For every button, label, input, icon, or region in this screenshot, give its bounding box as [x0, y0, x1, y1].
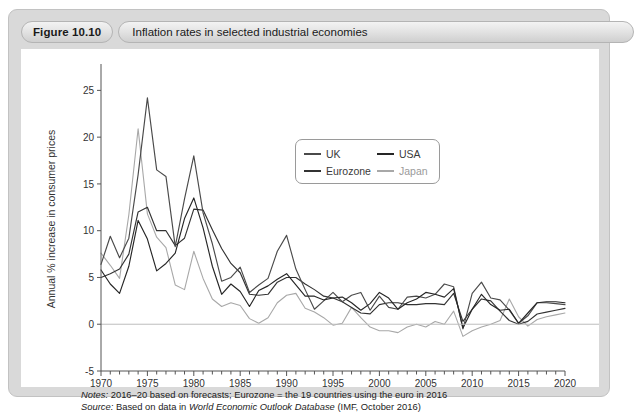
x-tick-label: 1970	[90, 378, 113, 387]
x-tick-label: 2020	[554, 378, 577, 387]
legend-swatch-usa	[377, 153, 394, 155]
legend-swatch-eurozone	[304, 170, 321, 172]
y-tick-label: 15	[83, 179, 95, 190]
figure-title-label: Inflation rates in selected industrial e…	[132, 26, 367, 38]
legend-row-1: UK USA	[304, 145, 431, 162]
legend-item-japan: Japan	[377, 165, 428, 177]
legend-item-eurozone: Eurozone	[304, 165, 377, 177]
y-axis-title: Annual % increase in consumer prices	[45, 130, 57, 309]
x-tick-label: 1995	[322, 378, 345, 387]
source-publication-title: World Economic Outlook Database	[189, 401, 335, 412]
footnote-source: Source: Based on data in World Economic …	[81, 401, 601, 412]
legend-label-eurozone: Eurozone	[326, 165, 371, 177]
source-text-before: Based on data in	[113, 401, 189, 412]
y-tick-label: 0	[88, 319, 94, 330]
x-tick-label: 2000	[368, 378, 391, 387]
x-tick-label: 2005	[415, 378, 438, 387]
y-tick-label: 5	[88, 272, 94, 283]
chart-canvas: -505101520251970197519801985199019952000…	[21, 49, 599, 387]
legend-swatch-japan	[377, 170, 394, 172]
source-label: Source:	[81, 401, 113, 412]
x-tick-label: 2010	[461, 378, 484, 387]
y-tick-label: 10	[83, 225, 95, 236]
notes-text: 2016–20 based on forecasts; Eurozone = t…	[108, 389, 447, 400]
y-tick-label: -5	[85, 366, 94, 377]
legend-label-japan: Japan	[399, 165, 428, 177]
figure-title-badge: Inflation rates in selected industrial e…	[118, 21, 634, 43]
x-tick-label: 1975	[136, 378, 159, 387]
y-axis-title-group: Annual % increase in consumer prices	[45, 130, 57, 309]
legend-item-usa: USA	[377, 148, 421, 160]
legend-row-2: Eurozone Japan	[304, 162, 431, 179]
legend-swatch-uk	[304, 153, 321, 155]
legend-item-uk: UK	[304, 148, 377, 160]
y-tick-label: 25	[83, 85, 95, 96]
figure-number-label: Figure 10.10	[33, 26, 101, 38]
chart-legend: UK USA Eurozone Japan	[295, 139, 440, 184]
inflation-line-chart: -505101520251970197519801985199019952000…	[21, 49, 599, 387]
plot-series-group	[101, 98, 565, 337]
y-tick-label: 20	[83, 132, 95, 143]
x-tick-label: 2015	[507, 378, 530, 387]
source-text-after: (IMF, October 2016)	[335, 401, 421, 412]
legend-label-usa: USA	[399, 148, 421, 160]
notes-label: Notes:	[81, 389, 108, 400]
series-line-usa	[101, 198, 565, 328]
x-tick-label: 1990	[275, 378, 298, 387]
x-tick-label: 1980	[183, 378, 206, 387]
figure-number-badge: Figure 10.10	[21, 21, 113, 43]
tick-labels-group: -505101520251970197519801985199019952000…	[83, 85, 577, 387]
figure-panel: Figure 10.10 Inflation rates in selected…	[8, 9, 610, 397]
legend-label-uk: UK	[326, 148, 341, 160]
x-tick-label: 1985	[229, 378, 252, 387]
figure-header: Figure 10.10 Inflation rates in selected…	[21, 21, 634, 43]
series-line-uk	[101, 98, 565, 329]
footnote-notes: Notes: 2016–20 based on forecasts; Euroz…	[81, 389, 601, 401]
figure-footnotes: Notes: 2016–20 based on forecasts; Euroz…	[81, 389, 601, 412]
